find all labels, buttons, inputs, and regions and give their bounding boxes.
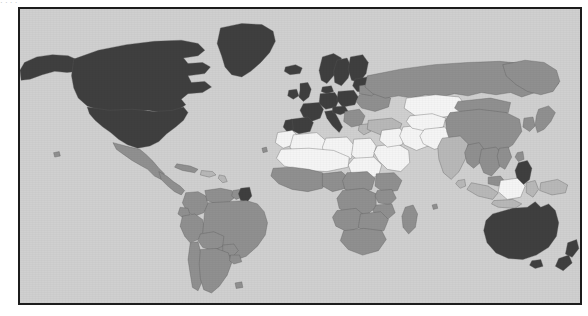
top-clipped-text-strip: · · · · — [0, 0, 588, 5]
region-island-speck-indian — [432, 204, 438, 210]
screenshot-page: · · · · — [0, 0, 588, 316]
world-choropleth-map[interactable] — [20, 9, 580, 303]
region-falklands — [235, 282, 243, 289]
region-island-speck-pacific — [54, 152, 61, 158]
region-island-speck-atlantic — [262, 147, 268, 153]
map-frame[interactable] — [18, 7, 582, 305]
top-strip-text: · · · · — [0, 0, 17, 5]
